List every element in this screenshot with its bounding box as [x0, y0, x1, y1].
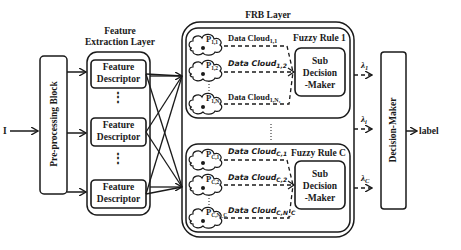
prototype-c-nc: PC,N_C — [206, 207, 227, 218]
feature-layer-title-2: Extraction Layer — [80, 37, 160, 48]
lambda-i: λi — [361, 114, 367, 127]
data-cloud-1-n1: Data Cloud1,N₁ — [228, 92, 280, 103]
data-cloud-c-2: Data CloudC,2 — [228, 173, 287, 183]
prototype-1-2: P1,2 — [206, 60, 218, 71]
output-label: label — [419, 126, 439, 137]
decision-maker-label: Decision-Maker — [388, 70, 398, 190]
lambda-c: λC — [361, 173, 369, 186]
feature-layer-title-1: Feature — [85, 26, 155, 37]
descriptor-ellipsis-2: ⋮ — [108, 153, 128, 164]
descriptor-1-line2: Descriptor — [91, 74, 146, 85]
sub-dm-c-line2: Decision — [295, 181, 345, 192]
prototype-1-n1: P1,N₁ — [206, 93, 221, 104]
prototype-c-1: PC,1 — [206, 149, 219, 160]
data-cloud-c-nc: Data CloudC,N_C — [228, 206, 295, 216]
data-cloud-c-1: Data CloudC,1 — [228, 147, 287, 157]
descriptor-3-line1: Feature — [91, 182, 146, 193]
data-cloud-1-2: Data Cloud1,2 — [228, 59, 287, 69]
lambda-1: λ1 — [361, 60, 368, 73]
fuzzy-rule-c-title: Fuzzy Rule C — [291, 148, 346, 159]
descriptor-2-line1: Feature — [91, 120, 146, 131]
frb-layer-title: FRB Layer — [228, 10, 308, 21]
sub-dm-1-line2: Decision — [295, 68, 345, 79]
data-cloud-1-1: Data Cloud1,1 — [228, 33, 277, 44]
prototype-1-1: P1,1 — [206, 34, 218, 45]
sub-dm-1-line1: Sub — [295, 56, 345, 67]
sub-dm-1-line3: -Maker — [295, 80, 345, 91]
descriptor-ellipsis-1: ⋮ — [108, 92, 128, 103]
input-label: I — [3, 126, 7, 137]
descriptor-1-line1: Feature — [91, 62, 146, 73]
descriptor-3-line2: Descriptor — [91, 194, 146, 205]
sub-dm-c-line3: -Maker — [295, 193, 345, 204]
fuzzy-rule-1-title: Fuzzy Rule 1 — [293, 33, 346, 44]
sub-dm-c-line1: Sub — [295, 169, 345, 180]
descriptor-2-line2: Descriptor — [91, 132, 146, 143]
prototype-c-2: PC,2 — [206, 174, 219, 185]
preprocessing-label: Pre-processing Block — [49, 54, 59, 194]
